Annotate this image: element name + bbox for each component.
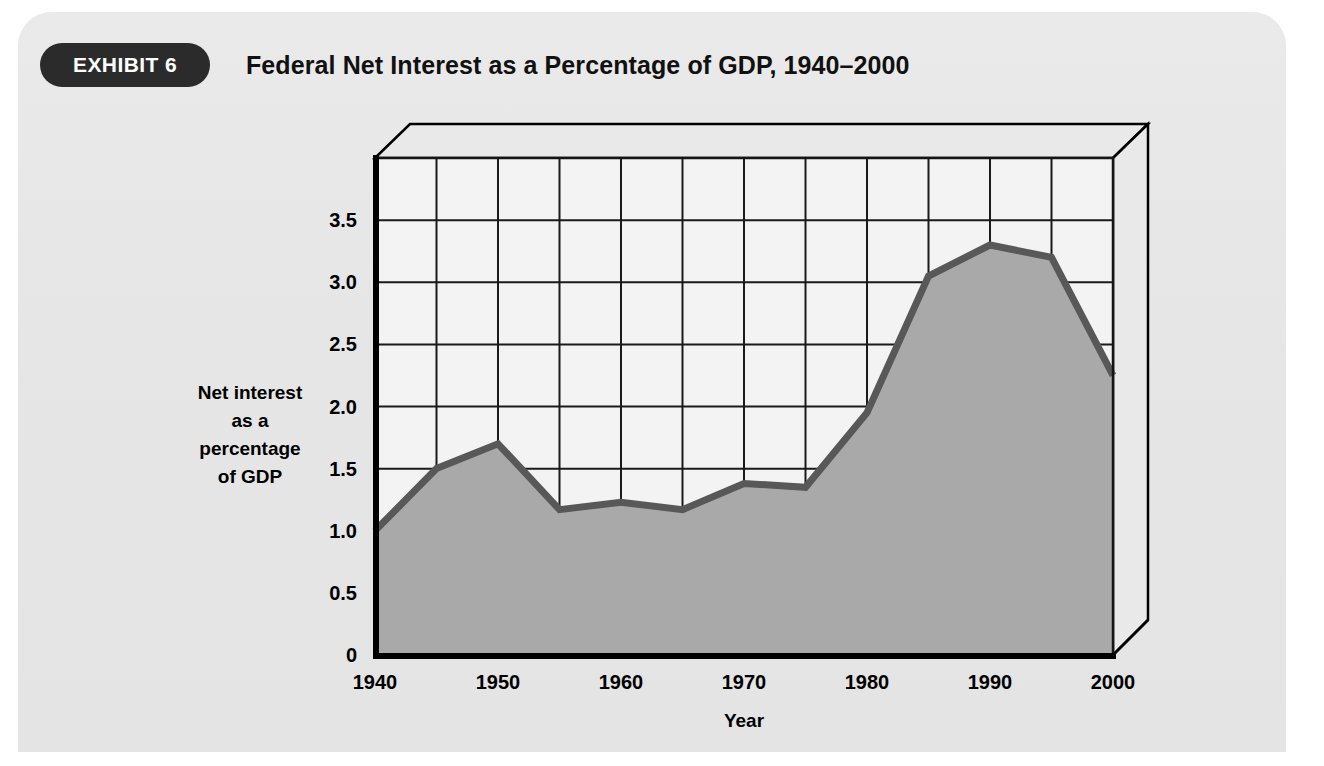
- x-tick-label: 1950: [476, 671, 521, 693]
- x-tick-labels: 1940195019601970198019902000: [353, 671, 1136, 693]
- y-axis-title: Net interestas apercentageof GDP: [198, 382, 303, 487]
- y-axis-title-line: as a: [232, 410, 269, 431]
- y-axis-title-line: Net interest: [198, 382, 303, 403]
- area-chart: 00.51.01.52.02.53.03.5 19401950196019701…: [0, 0, 1324, 766]
- y-tick-label: 3.0: [329, 271, 357, 293]
- chart-top-wall: [375, 124, 1148, 158]
- y-tick-label: 0: [346, 644, 357, 666]
- exhibit-page: EXHIBIT 6 Federal Net Interest as a Perc…: [0, 0, 1324, 766]
- y-tick-label: 1.0: [329, 520, 357, 542]
- y-tick-label: 2.5: [329, 333, 357, 355]
- x-tick-label: 2000: [1091, 671, 1136, 693]
- x-tick-label: 1970: [722, 671, 767, 693]
- y-tick-label: 0.5: [329, 582, 357, 604]
- y-tick-label: 3.5: [329, 209, 357, 231]
- x-axis-title: Year: [724, 710, 765, 731]
- chart-right-wall: [1113, 124, 1148, 655]
- y-tick-label: 1.5: [329, 458, 357, 480]
- y-axis-title-line: of GDP: [218, 466, 283, 487]
- y-axis-title-line: percentage: [199, 438, 300, 459]
- x-tick-label: 1990: [968, 671, 1013, 693]
- x-tick-label: 1980: [845, 671, 890, 693]
- chart-container: 00.51.01.52.02.53.03.5 19401950196019701…: [0, 0, 1268, 740]
- y-tick-labels: 00.51.01.52.02.53.03.5: [329, 209, 357, 666]
- y-tick-label: 2.0: [329, 396, 357, 418]
- x-tick-label: 1960: [599, 671, 644, 693]
- x-tick-label: 1940: [353, 671, 398, 693]
